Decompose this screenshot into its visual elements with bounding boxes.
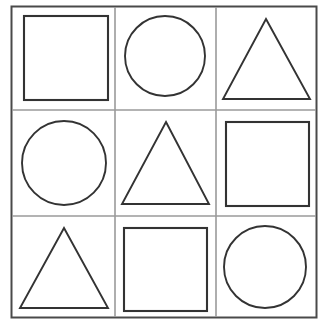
shape-square-top-left <box>24 16 108 100</box>
shape-triangle-middle-center <box>122 122 209 204</box>
shape-square-bottom-center <box>124 228 207 311</box>
shape-circle-bottom-right <box>224 226 306 308</box>
worksheet-canvas <box>0 0 331 336</box>
grid-outer-border <box>12 7 317 318</box>
shapes-grid <box>0 0 331 336</box>
shape-circle-top-center <box>125 16 205 96</box>
shape-square-middle-right <box>226 122 309 206</box>
shape-circle-middle-left <box>22 121 106 205</box>
shape-triangle-top-right <box>223 19 310 99</box>
shape-triangle-bottom-left <box>20 228 108 308</box>
